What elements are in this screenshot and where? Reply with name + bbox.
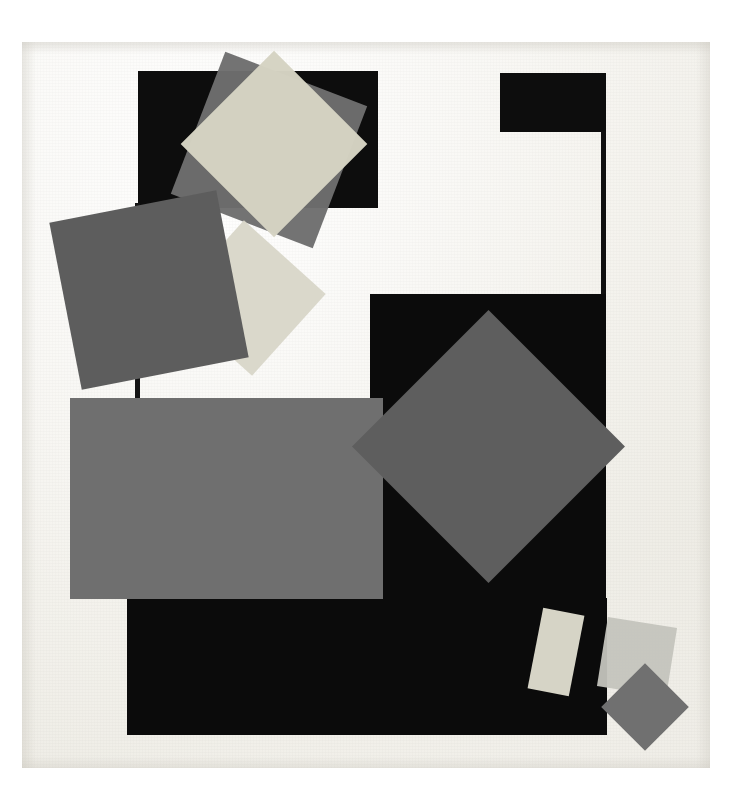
left-dark-gray-square: [49, 190, 248, 389]
top-right-black-rectangle: [500, 73, 606, 132]
right-vertical-line: [601, 131, 606, 296]
paper-ground: [22, 42, 710, 768]
artboard: Abstract geometric composition Construct…: [0, 0, 732, 806]
large-gray-rectangle: [70, 398, 383, 599]
